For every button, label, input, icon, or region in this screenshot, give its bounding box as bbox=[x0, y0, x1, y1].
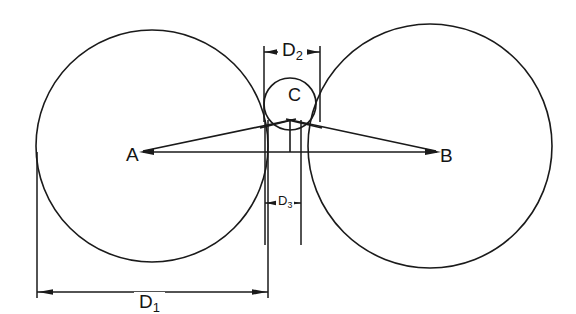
ray-a-to-c bbox=[143, 119, 296, 151]
d2-arrowhead-left bbox=[265, 49, 277, 55]
point-label-b: B bbox=[440, 146, 453, 165]
right-circle bbox=[308, 24, 552, 268]
dimension-label-d1-subscript: 1 bbox=[153, 300, 160, 314]
d2-arrowhead-right bbox=[307, 49, 319, 55]
dimension-label-d2-base: D bbox=[282, 39, 296, 60]
d1-arrowhead-left bbox=[38, 289, 53, 295]
dimension-label-d3: D3 bbox=[276, 194, 294, 207]
d1-arrowhead-right bbox=[252, 289, 267, 295]
dimension-label-d3-base: D bbox=[278, 193, 287, 208]
technical-diagram: A B C D1 D2 D3 bbox=[0, 0, 576, 314]
point-label-a: A bbox=[126, 145, 139, 164]
point-label-c: C bbox=[288, 86, 301, 104]
dimension-label-d2-subscript: 2 bbox=[296, 48, 303, 63]
dimension-label-d1-base: D bbox=[139, 291, 153, 312]
dimension-label-d2: D2 bbox=[278, 40, 307, 59]
left-circle bbox=[36, 30, 268, 262]
dimension-label-d1: D1 bbox=[134, 292, 165, 311]
dimension-label-d3-subscript: 3 bbox=[287, 200, 292, 210]
